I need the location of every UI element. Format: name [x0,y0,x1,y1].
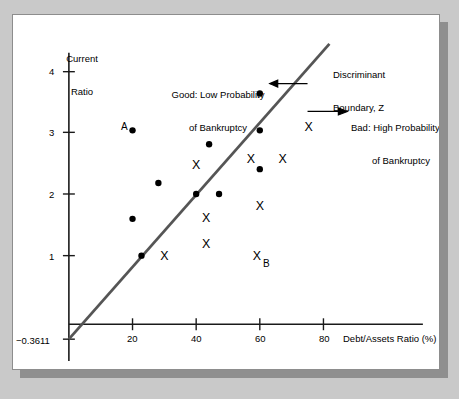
y-intercept-label: −0.3611 [16,335,50,346]
good-region-annotation: Good: Low Probability of Bankruptcy [163,67,273,155]
x-tick-label-80: 80 [319,333,330,344]
data-point-dot [193,191,199,197]
y-tick-label-3: 3 [49,127,54,138]
data-point-x: X [304,120,313,134]
x-axis-title: Debt/Assets Ratio (%) [343,333,436,344]
data-point-dot [155,180,161,186]
x-tick-label-60: 60 [255,333,266,344]
data-point-dot [138,252,144,258]
data-point-dot [129,216,135,222]
data-point-label-A: A [121,121,128,132]
data-point-dot [129,127,135,133]
data-point-x: X [192,158,201,172]
chart-panel: X X X X X X X X X Current Ratio 4 3 2 1 … [12,14,440,370]
good-annotation-line2: of Bankruptcy [163,122,273,133]
bad-region-annotation: Bad: High Probability of Bankruptcy [351,100,440,188]
y-tick-label-2: 2 [49,189,54,200]
bad-annotation-line2: of Bankruptcy [351,155,440,166]
x-tick-label-40: 40 [191,333,202,344]
y-tick-label-4: 4 [49,66,54,77]
data-point-x: X [202,237,211,251]
boundary-annotation-line1: Discriminant [333,69,438,80]
data-point-label-B: B [263,258,270,269]
data-point-x: X [160,249,169,263]
y-axis-title: Current Ratio [51,31,113,119]
data-point-x: X [202,211,211,225]
y-tick-label-1: 1 [49,251,54,262]
y-axis-title-line1: Current [51,53,113,64]
good-annotation-arrow [270,80,308,87]
data-point-dot [257,166,263,172]
data-point-x: X [253,249,262,263]
data-point-x: X [279,152,288,166]
y-axis-title-line2: Ratio [51,86,113,97]
x-tick-label-20: 20 [127,333,138,344]
data-point-x: X [256,199,265,213]
bad-annotation-line1: Bad: High Probability [351,122,440,133]
good-annotation-line1: Good: Low Probability [163,89,273,100]
data-point-dot [216,191,222,197]
